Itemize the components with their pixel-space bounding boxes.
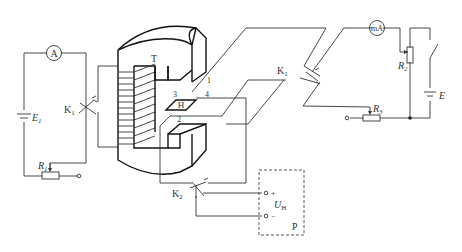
hall-element: H 1 2 3 4 [160, 76, 211, 126]
switch-k1-left[interactable]: K1 [64, 96, 97, 117]
svg-text:R2: R2 [397, 60, 408, 73]
main-switch[interactable] [430, 44, 438, 58]
switch-k2[interactable]: K2 [172, 178, 208, 201]
svg-text:UH: UH [274, 199, 286, 212]
svg-text:1: 1 [207, 76, 211, 85]
voltmeter-box-p: + − UH P [259, 170, 304, 235]
svg-text:2: 2 [177, 115, 181, 124]
svg-text:E1: E1 [31, 112, 42, 125]
svg-text:3: 3 [173, 90, 177, 99]
svg-text:E: E [438, 90, 445, 101]
svg-text:H: H [178, 100, 185, 110]
svg-text:+: + [271, 189, 276, 198]
svg-text:R1: R1 [37, 160, 48, 173]
ammeter: A [47, 46, 62, 61]
milliammeter: mA [370, 21, 385, 36]
battery-e1: E1 [17, 112, 42, 125]
rheostat-r2: R2 [397, 47, 413, 73]
svg-text:T: T [151, 53, 157, 64]
svg-text:K1: K1 [277, 65, 288, 78]
svg-text:K2: K2 [172, 188, 183, 201]
svg-text:P: P [292, 221, 298, 232]
hall-voltage-wires [160, 126, 262, 216]
hall-current-circuit [350, 28, 430, 120]
hall-current-wires [192, 28, 372, 158]
svg-text:mA: mA [371, 24, 383, 33]
svg-text:A: A [50, 48, 58, 59]
svg-text:−: − [271, 212, 276, 221]
battery-e: E [424, 90, 445, 101]
svg-text:R3: R3 [372, 103, 383, 116]
svg-text:K1: K1 [64, 104, 75, 117]
hall-effect-circuit-diagram: A E1 R1 K1 [0, 0, 462, 252]
